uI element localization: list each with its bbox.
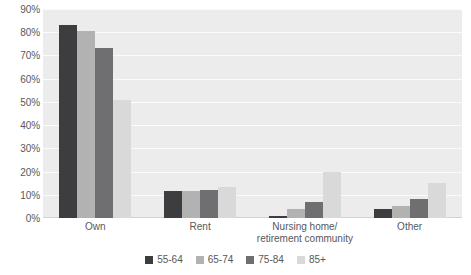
x-axis-category-label: Nursing home/retirement community <box>253 221 358 251</box>
legend-item[interactable]: 75-84 <box>246 254 284 265</box>
legend-color-swatch-icon <box>297 256 305 264</box>
bar[interactable] <box>218 187 236 218</box>
x-axis-category-label-line: Own <box>43 221 148 233</box>
y-axis-tick-label: 80% <box>20 27 40 38</box>
x-axis-category-label-line: Nursing home/ <box>253 221 358 233</box>
y-axis-tick-label: 50% <box>20 96 40 107</box>
legend-item-label: 75-84 <box>258 254 284 265</box>
y-axis-tick-label: 90% <box>20 4 40 15</box>
bar[interactable] <box>59 25 77 218</box>
bar[interactable] <box>410 199 428 218</box>
y-axis-tick-label: 70% <box>20 50 40 61</box>
bar-group <box>253 9 358 218</box>
bar-group-bars <box>269 9 341 218</box>
bar[interactable] <box>164 191 182 218</box>
y-axis-tick-label: 20% <box>20 166 40 177</box>
x-axis-category-label: Own <box>43 221 148 251</box>
bar-group <box>43 9 148 218</box>
legend-color-swatch-icon <box>145 256 153 264</box>
bar-group <box>357 9 462 218</box>
legend-item-label: 55-64 <box>157 254 183 265</box>
bar[interactable] <box>323 172 341 218</box>
y-axis-tick-label: 40% <box>20 120 40 131</box>
x-axis-category-label-line: Other <box>357 221 462 233</box>
legend-color-swatch-icon <box>196 256 204 264</box>
bar-group-bars <box>374 9 446 218</box>
y-axis-tick-label: 60% <box>20 73 40 84</box>
bar[interactable] <box>200 190 218 218</box>
legend-item-label: 85+ <box>309 254 326 265</box>
legend-item-label: 65-74 <box>208 254 234 265</box>
legend-item[interactable]: 55-64 <box>145 254 183 265</box>
bar-group <box>148 9 253 218</box>
bar[interactable] <box>305 202 323 218</box>
bar[interactable] <box>113 100 131 218</box>
bar-group-bars <box>59 9 131 218</box>
bar[interactable] <box>77 31 95 218</box>
y-axis-tick-label: 0% <box>26 213 40 224</box>
legend: 55-6465-7475-8485+ <box>0 254 471 265</box>
bar[interactable] <box>95 48 113 218</box>
bar[interactable] <box>269 216 287 218</box>
legend-item[interactable]: 85+ <box>297 254 326 265</box>
y-axis-tick-label: 30% <box>20 143 40 154</box>
bar-chart: 90%80%70%60%50%40%30%20%10%0% OwnRentNur… <box>0 0 471 275</box>
x-axis-labels: OwnRentNursing home/retirement community… <box>43 221 462 251</box>
x-axis-category-label: Rent <box>148 221 253 251</box>
bar[interactable] <box>428 183 446 218</box>
x-axis-category-label-line: Rent <box>148 221 253 233</box>
y-axis-tick-label: 10% <box>20 189 40 200</box>
bar-group-bars <box>164 9 236 218</box>
bar[interactable] <box>392 206 410 218</box>
bar[interactable] <box>182 191 200 218</box>
x-axis-category-label: Other <box>357 221 462 251</box>
bar[interactable] <box>374 209 392 218</box>
x-axis-category-label-line: retirement community <box>253 233 358 245</box>
bar[interactable] <box>287 209 305 218</box>
legend-color-swatch-icon <box>246 256 254 264</box>
plot-area-wrapper <box>43 9 462 218</box>
legend-item[interactable]: 65-74 <box>196 254 234 265</box>
y-axis: 90%80%70%60%50%40%30%20%10%0% <box>0 9 40 218</box>
bar-groups <box>43 9 462 218</box>
